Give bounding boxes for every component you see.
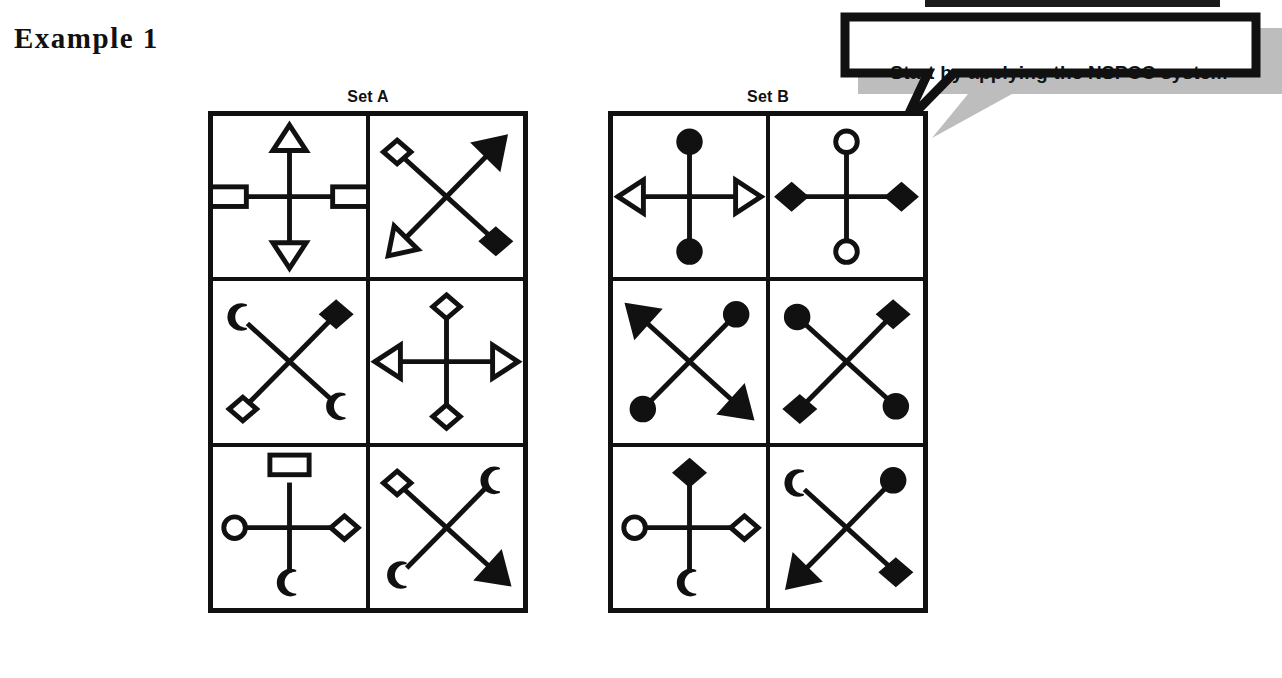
set-b-cell-2 bbox=[770, 116, 923, 277]
set-a-cell-4 bbox=[370, 281, 523, 442]
set-a-label: Set A bbox=[208, 88, 528, 106]
page-title: Example 1 bbox=[14, 22, 159, 55]
set-a-cell-3 bbox=[213, 281, 366, 442]
set-b-cell-4 bbox=[770, 281, 923, 442]
set-b-grid bbox=[608, 111, 928, 613]
set-a-cell-1 bbox=[213, 116, 366, 277]
set-b-block: Set B bbox=[608, 88, 928, 613]
set-b-cell-3 bbox=[613, 281, 766, 442]
set-a-block: Set A bbox=[208, 88, 528, 613]
set-b-cell-1 bbox=[613, 116, 766, 277]
top-black-bar bbox=[925, 0, 1220, 7]
set-a-grid bbox=[208, 111, 528, 613]
set-a-cell-5 bbox=[213, 447, 366, 608]
set-a-cell-2 bbox=[370, 116, 523, 277]
set-b-label: Set B bbox=[608, 88, 928, 106]
set-b-cell-5 bbox=[613, 447, 766, 608]
set-a-cell-6 bbox=[370, 447, 523, 608]
set-b-cell-6 bbox=[770, 447, 923, 608]
